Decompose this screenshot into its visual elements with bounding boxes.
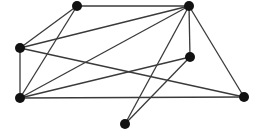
node-D [185, 52, 195, 62]
edge-E-F [20, 97, 244, 98]
edge-A-C [20, 6, 77, 48]
node-G [120, 119, 130, 129]
edge-B-C [20, 6, 189, 48]
graph-diagram [0, 0, 257, 138]
edge-A-E [20, 6, 77, 98]
node-A [72, 1, 82, 11]
edges-layer [20, 6, 244, 124]
edge-B-F [189, 6, 244, 97]
edge-B-D [189, 6, 190, 57]
node-F [239, 92, 249, 102]
node-E [15, 93, 25, 103]
edge-E-D [20, 57, 190, 98]
node-C [15, 43, 25, 53]
node-B [184, 1, 194, 11]
edge-D-G [125, 57, 190, 124]
